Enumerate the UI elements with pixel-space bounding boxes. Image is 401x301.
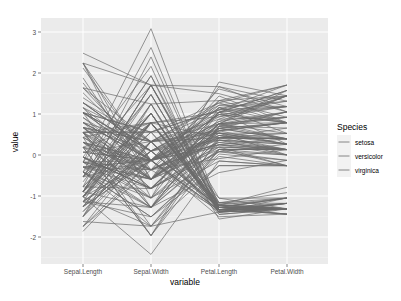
y-tick-label: 1 — [32, 111, 36, 118]
y-tick: 0 — [32, 152, 41, 159]
x-axis-title: variable — [170, 277, 200, 287]
x-tick-label: Sepal.Width — [133, 268, 168, 276]
x-tick: Sepal.Width — [133, 264, 168, 276]
x-axis: Sepal.Length Sepal.Width Petal.Length Pe… — [64, 264, 304, 276]
y-tick: -1 — [30, 193, 41, 200]
legend-item-versicolor: versicolor — [337, 149, 384, 163]
x-tick-label: Sepal.Length — [64, 268, 103, 276]
y-tick-label: 0 — [32, 152, 36, 159]
y-tick-label: 3 — [32, 29, 36, 36]
x-tick-label: Petal.Width — [270, 268, 304, 275]
x-tick: Petal.Width — [270, 264, 304, 275]
legend-title: Species — [337, 122, 367, 132]
parallel-coordinates-chart: -2 -1 0 1 2 3 Sepal.Length Sepal.Width P… — [0, 0, 401, 301]
legend-label: setosa — [355, 139, 375, 146]
y-tick: -2 — [30, 234, 41, 241]
legend-label: virginica — [355, 167, 379, 175]
y-tick: 3 — [32, 29, 41, 36]
x-tick: Petal.Length — [201, 264, 238, 276]
y-tick: 2 — [32, 70, 41, 77]
x-tick-label: Petal.Length — [201, 268, 238, 276]
y-tick-label: 2 — [32, 70, 36, 77]
y-tick-label: -1 — [30, 193, 36, 200]
y-tick-label: -2 — [30, 234, 36, 241]
legend-item-virginica: virginica — [337, 163, 379, 177]
legend-label: versicolor — [355, 153, 384, 160]
x-tick: Sepal.Length — [64, 264, 103, 276]
legend-item-setosa: setosa — [337, 135, 375, 149]
y-axis: -2 -1 0 1 2 3 — [30, 29, 41, 241]
y-tick: 1 — [32, 111, 41, 118]
y-axis-title: value — [10, 132, 20, 153]
legend: Species setosa versicolor virginica — [337, 122, 384, 177]
